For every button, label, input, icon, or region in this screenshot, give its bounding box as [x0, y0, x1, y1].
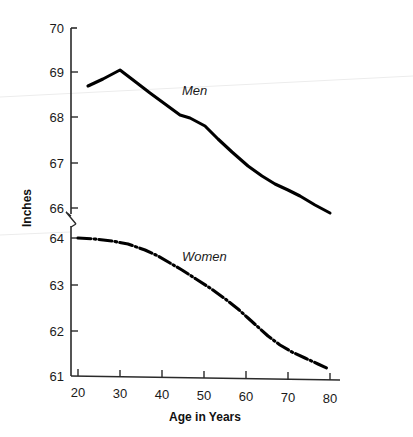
y-axis-break-icon	[66, 212, 76, 227]
men-line	[88, 70, 330, 213]
x-axis: 20 30 40 50 60 70 80 Age in Years	[71, 369, 340, 424]
y-tick-label-68: 68	[50, 110, 64, 125]
x-tick-label-70: 70	[281, 390, 295, 405]
y-tick-label-69: 69	[50, 65, 64, 80]
x-tick-label-30: 30	[113, 386, 127, 401]
chart-figure: 70 69 68 67 66 64 63 62 61 Inches 20 30 …	[0, 0, 413, 437]
x-tick-label-80: 80	[323, 391, 337, 406]
y-tick-label-63: 63	[50, 278, 64, 293]
y-axis: 70 69 68 67 66 64 63 62 61 Inches	[20, 21, 78, 384]
y-tick-label-62: 62	[50, 324, 64, 339]
x-tick-label-40: 40	[155, 387, 169, 402]
y-tick-label-67: 67	[50, 156, 64, 171]
y-tick-label-61: 61	[50, 369, 64, 384]
x-axis-title: Age in Years	[169, 410, 241, 424]
series-men	[88, 70, 330, 213]
series-label-men: Men	[182, 83, 207, 98]
y-tick-label-66: 66	[50, 201, 64, 216]
y-axis-title: Inches	[20, 189, 34, 227]
x-tick-label-60: 60	[239, 389, 253, 404]
series-label-women: Women	[182, 249, 227, 264]
y-tick-label-64: 64	[50, 231, 64, 246]
x-tick-label-20: 20	[71, 385, 85, 400]
y-tick-label-70: 70	[50, 21, 64, 36]
x-tick-label-50: 50	[197, 388, 211, 403]
line-chart-svg: 70 69 68 67 66 64 63 62 61 Inches 20 30 …	[0, 0, 413, 437]
x-axis-spine	[71, 376, 340, 380]
